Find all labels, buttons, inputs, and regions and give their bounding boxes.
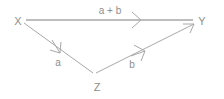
vertex-label-y: Y — [198, 15, 206, 27]
edge-label-b: b — [129, 59, 135, 70]
vertex-label-z: Z — [94, 81, 101, 93]
edge-z-to-y — [96, 24, 194, 73]
edge-label-a: a — [55, 57, 61, 68]
edge-label-a-plus-b: a + b — [99, 5, 122, 16]
edge-x-to-z-arrowhead-icon — [50, 40, 61, 53]
vertex-label-x: X — [14, 15, 22, 27]
edge-z-to-y-line — [96, 24, 194, 73]
vector-diagram-canvas: X Y Z a + b a b — [0, 0, 224, 99]
vector-triangle-diagram: X Y Z a + b a b — [0, 0, 224, 99]
